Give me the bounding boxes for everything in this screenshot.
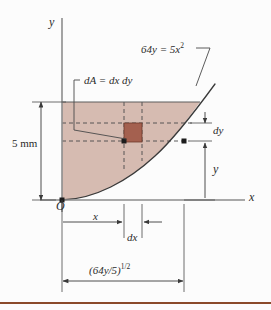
differential-area-text: dA = dx dy — [84, 74, 132, 86]
y-axis-label: y — [49, 16, 54, 28]
origin-label: O — [56, 200, 65, 212]
figure-canvas: y x O 64y = 5x2 dA = dx dy 5 mm dy y x d… — [0, 0, 271, 310]
diagram-svg — [0, 0, 271, 310]
height-dimension-label: 5 mm — [12, 138, 37, 149]
x-axis-label: x — [249, 191, 254, 203]
curve-equation-text: 64y = 5x — [141, 43, 180, 55]
width-dimension-base: (64y/5) — [89, 264, 121, 276]
differential-area-element — [124, 123, 142, 142]
curve-point-marker — [182, 139, 187, 144]
y-dimension-label: y — [213, 163, 218, 175]
shaded-area-region — [62, 102, 200, 200]
dx-dimension-label: dx — [127, 232, 137, 243]
bottom-divider-rule — [0, 302, 271, 304]
curve-equation-exponent: 2 — [180, 41, 184, 50]
dy-dimension-label: dy — [213, 125, 223, 136]
x-dimension-label: x — [93, 211, 98, 222]
width-dimension-exponent: 1/2 — [121, 262, 131, 271]
differential-area-label: dA = dx dy — [84, 75, 132, 86]
curve-equation-label: 64y = 5x2 — [141, 42, 184, 55]
leader-line-equation — [196, 48, 210, 86]
width-dimension-label: (64y/5)1/2 — [89, 263, 130, 276]
